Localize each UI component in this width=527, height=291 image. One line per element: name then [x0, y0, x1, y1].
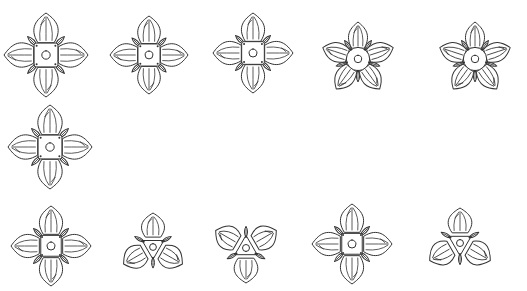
flower-drawing-f11	[421, 204, 499, 282]
flower-drawing-f1	[0, 9, 92, 101]
flower-drawing-f4	[317, 18, 399, 100]
flower-drawing-f8	[115, 209, 191, 285]
flower-drawing-f6	[4, 101, 96, 193]
flower-drawing-f9	[207, 209, 285, 287]
flower-drawing-f7	[7, 202, 95, 290]
flower-drawing-f2	[106, 12, 192, 98]
flower-drawing-f3	[209, 9, 297, 97]
flower-drawing-f10	[308, 200, 396, 288]
flower-drawing-f5	[434, 18, 516, 100]
